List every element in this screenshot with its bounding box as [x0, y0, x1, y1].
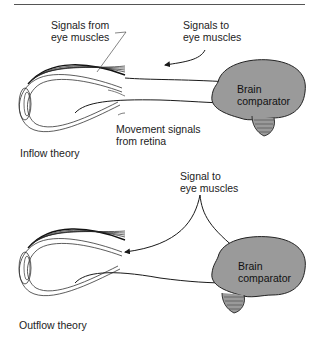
- label-line: comparator: [237, 96, 290, 108]
- label-line: eye muscles: [51, 32, 109, 44]
- label-brain-comparator-inflow: Brain comparator: [237, 84, 290, 107]
- label-movement-signals: Movement signals from retina: [116, 124, 201, 147]
- diagram-canvas: [0, 0, 319, 347]
- label-line: from retina: [116, 136, 201, 148]
- label-line: Brain: [237, 84, 290, 96]
- outflow-eye-icon: [19, 229, 125, 296]
- label-line: Signal to: [180, 171, 238, 183]
- label-line: comparator: [238, 273, 291, 285]
- label-line: eye muscles: [180, 183, 238, 195]
- inflow-signal-paths: [75, 32, 230, 113]
- label-signal-to-eye-muscles: Signal to eye muscles: [180, 171, 238, 194]
- label-line: Brain: [238, 261, 291, 273]
- label-brain-comparator-outflow: Brain comparator: [238, 261, 291, 284]
- inflow-eye-icon: [19, 65, 125, 132]
- label-signals-from-eye-muscles: Signals from eye muscles: [51, 20, 109, 43]
- panel-title-outflow: Outflow theory: [19, 320, 87, 332]
- label-line: Movement signals: [116, 124, 201, 136]
- label-line: Signals from: [51, 20, 109, 32]
- label-line: Signals to: [183, 20, 241, 32]
- label-line: eye muscles: [183, 32, 241, 44]
- panel-title-inflow: Inflow theory: [20, 148, 80, 160]
- label-signals-to-eye-muscles: Signals to eye muscles: [183, 20, 241, 43]
